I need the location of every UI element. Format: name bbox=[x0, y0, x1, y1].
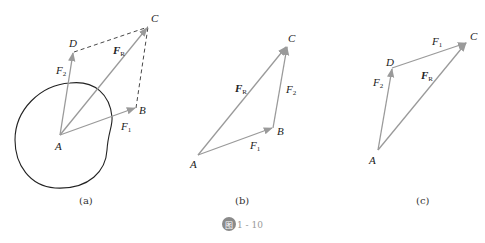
vector-f2-arrow bbox=[273, 47, 287, 128]
vector-f2-label: F2 bbox=[285, 83, 297, 97]
figure-badge-label: 图 bbox=[225, 221, 233, 230]
point-b-label: B bbox=[277, 125, 284, 137]
point-d-label: D bbox=[68, 37, 77, 49]
vector-f2-label: F2 bbox=[55, 64, 67, 78]
vector-f1-label: F1 bbox=[431, 35, 443, 49]
point-a-label: A bbox=[368, 154, 376, 166]
point-c-label: C bbox=[151, 12, 159, 24]
point-c-label: C bbox=[470, 30, 478, 42]
panel-b: A B C F1 F2 FR (b) bbox=[189, 32, 297, 206]
vector-f2-label: F2 bbox=[372, 76, 384, 90]
panel-c: A D C F1 F2 FR (c) bbox=[368, 30, 478, 206]
vector-f1-label: F1 bbox=[249, 139, 261, 153]
panel-c-caption: (c) bbox=[416, 195, 430, 206]
point-d-label: D bbox=[385, 56, 394, 68]
point-a-label: A bbox=[189, 158, 197, 170]
vector-fr-label: FR bbox=[420, 69, 433, 83]
point-a-label: A bbox=[54, 140, 62, 152]
point-b-label: B bbox=[139, 104, 146, 116]
figure-caption: 图 1 - 10 bbox=[222, 217, 263, 231]
vector-f1-label: F1 bbox=[120, 120, 132, 134]
panel-b-caption: (b) bbox=[235, 195, 249, 206]
figure-number: 1 - 10 bbox=[237, 220, 263, 230]
vector-fr-label: FR bbox=[234, 82, 247, 96]
rigid-body-outline bbox=[15, 83, 112, 189]
vector-fr-label: FR bbox=[112, 44, 125, 58]
panel-a: A B C D F1 F2 FR (a) bbox=[15, 12, 159, 206]
panel-a-caption: (a) bbox=[79, 195, 93, 206]
vector-addition-figure: A B C D F1 F2 FR (a) A B C F1 F2 FR (b) … bbox=[0, 0, 485, 243]
point-c-label: C bbox=[288, 32, 296, 44]
